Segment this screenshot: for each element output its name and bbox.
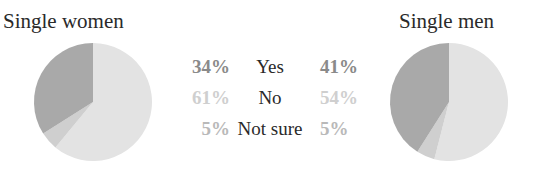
men-no-value: 54% bbox=[320, 87, 358, 109]
men-yes-value: 41% bbox=[320, 56, 358, 78]
men-not-sure-value: 5% bbox=[320, 118, 349, 140]
legend-row-yes: 34% Yes 41% bbox=[160, 56, 380, 80]
legend-row-not-sure: 5% Not sure 5% bbox=[160, 118, 380, 142]
legend-row-no: 61% No 54% bbox=[160, 87, 380, 111]
